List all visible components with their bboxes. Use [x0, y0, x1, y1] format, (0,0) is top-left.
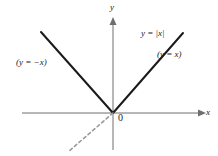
dashed-extension-line [68, 113, 113, 152]
y-axis-label: y [110, 3, 114, 12]
y-axis-arrow-icon [110, 17, 117, 25]
curve-y-equals-negative-x [41, 32, 113, 113]
curve-y-equals-x [113, 33, 183, 113]
absolute-value-curve-label: y = |x| [141, 29, 165, 38]
x-axis-label: x [206, 108, 210, 117]
left-branch-label: (y = −x) [16, 58, 47, 67]
plot-canvas [0, 0, 218, 156]
x-axis-arrow-icon [198, 110, 206, 117]
origin-label: 0 [118, 113, 123, 123]
right-branch-label: (y = x) [157, 50, 182, 59]
absolute-value-graph-figure: y x y = |x| (y = x) (y = −x) 0 [0, 0, 218, 156]
